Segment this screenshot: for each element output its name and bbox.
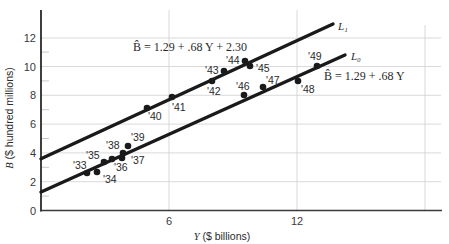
point-label-1940: '40 — [148, 110, 162, 122]
point-1938 — [120, 150, 127, 157]
point-label-1944: '44 — [226, 54, 240, 66]
x-tick-labels: 6 12 — [166, 215, 303, 227]
point-label-1935: '35 — [86, 149, 100, 161]
y-tick-2: 2 — [30, 176, 36, 188]
point-label-1938: '38 — [106, 139, 120, 151]
x-axis-unit: ($ billions) — [200, 230, 251, 242]
point-label-1937: '37 — [131, 154, 145, 166]
y-tick-6: 6 — [30, 118, 36, 130]
y-tick-labels: 0 2 4 6 8 10 12 — [24, 32, 36, 217]
point-label-1942: '42 — [207, 85, 221, 97]
point-label-1941: '41 — [172, 101, 186, 113]
equation-upper: B̂ = 1.29 + .68 Y + 2.30 — [133, 40, 247, 54]
y-tick-12: 12 — [24, 32, 36, 44]
line-label-L1: L₁ — [337, 20, 348, 32]
x-tick-12: 12 — [291, 215, 303, 227]
point-label-1948: '48 — [301, 83, 315, 95]
y-tick-4: 4 — [30, 147, 36, 159]
point-1939 — [125, 143, 132, 150]
scatter-chart: 0 2 4 6 8 10 12 6 12 Y ($ billions) B ($… — [0, 0, 449, 244]
point-label-1936: '36 — [114, 161, 128, 173]
point-label-1945: '45 — [256, 62, 270, 74]
y-axis-title: B ($ hundred millions) — [3, 67, 15, 169]
data-points — [84, 58, 321, 177]
point-1935 — [101, 159, 108, 166]
point-label-1946: '46 — [236, 80, 250, 92]
x-axis-title: Y ($ billions) — [194, 230, 251, 242]
y-tick-10: 10 — [24, 61, 36, 73]
point-1944 — [242, 58, 249, 65]
x-tick-6: 6 — [166, 215, 172, 227]
point-1941 — [169, 94, 176, 101]
point-1934 — [94, 169, 101, 176]
y-tick-8: 8 — [30, 89, 36, 101]
point-1945 — [247, 63, 254, 70]
point-1949 — [314, 63, 321, 70]
y-axis-unit: ($ hundred millions) — [3, 67, 15, 162]
point-1942 — [209, 78, 216, 85]
equation-lower: B̂ = 1.29 + .68 Y — [324, 69, 405, 83]
point-label-1939: '39 — [131, 131, 145, 143]
point-label-1943: '43 — [205, 64, 219, 76]
point-label-1933: '33 — [73, 159, 87, 171]
point-label-1934: '34 — [103, 173, 117, 185]
point-label-1947: '47 — [266, 74, 280, 86]
point-labels: '33 '34 '35 '36 '37 '38 '39 '40 '41 '42 … — [73, 50, 322, 185]
point-1946 — [241, 92, 248, 99]
point-1943 — [221, 68, 228, 75]
line-label-L0: L₀ — [350, 50, 361, 62]
point-label-1949: '49 — [308, 50, 322, 62]
y-tick-0: 0 — [30, 205, 36, 217]
